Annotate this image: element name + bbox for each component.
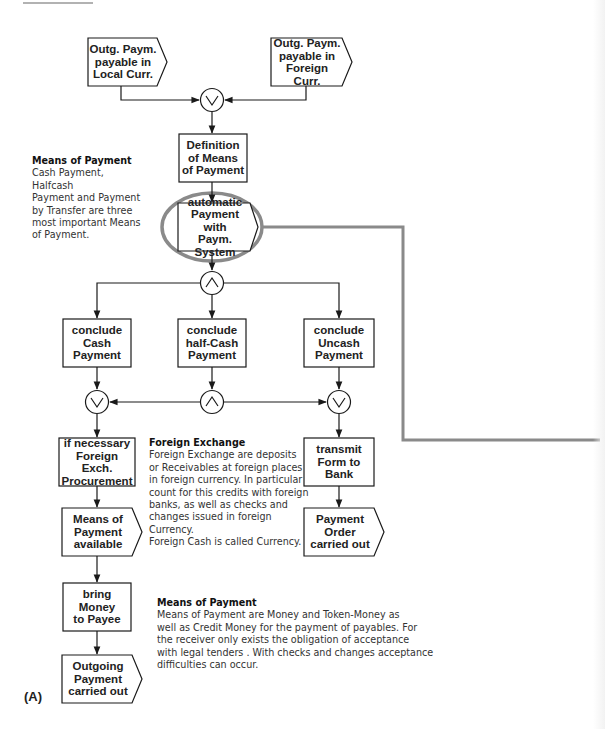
and-middle [201,391,224,414]
note-means-of-payment-1: Means of Payment Cash Payment, Halfcash … [32,155,142,242]
edge-and-cash [97,283,200,318]
note-body: Foreign Exchange are deposits or Receiva… [149,449,309,548]
xor-join-top [201,89,224,112]
note-means-of-payment-2: Means of Payment Means of Payment are Mo… [157,597,437,671]
note-body: Cash Payment, Halfcash Payment and Payme… [32,167,142,241]
note-foreign-exchange: Foreign Exchange Foreign Exchange are de… [149,437,309,549]
note-title: Foreign Exchange [149,437,309,449]
and-split [201,272,224,295]
note-title: Means of Payment [157,597,437,609]
event-foreign-label: Outg. Paym. payable in Foreign Curr. [271,38,343,86]
xor-left [86,391,109,414]
edge-local-xor [121,86,199,100]
func-bring-money-label: bring Money to Payee [63,583,131,631]
event-means-available-label: Means of Payment available [62,508,134,556]
func-halfcash-label: conclude half-Cash Payment [178,319,246,367]
func-procurement-label: if necessary Foreign Exch. Procurement [59,438,135,486]
func-transmit-label: transmit Form to Bank [304,438,374,486]
figure-label: (A) [24,689,42,704]
note-title: Means of Payment [32,155,142,167]
func-uncash-label: conclude Uncash Payment [304,319,374,367]
event-order-done-label: Payment Order carried out [304,508,376,556]
func-definition-label: Definition of Means of Payment [179,134,247,182]
xor-right [328,391,351,414]
page-edge-shadow [593,0,605,729]
event-automatic-label: automatic Payment with Paym. System [178,203,252,251]
edge-foreign-xor [225,86,306,100]
edge-and-uncash [224,283,339,318]
func-cash-label: conclude Cash Payment [63,319,131,367]
event-outgoing-done-label: Outgoing Payment carried out [62,655,134,703]
event-local-label: Outg. Paym. payable in Local Curr. [88,38,158,86]
note-body: Means of Payment are Money and Token-Mon… [157,609,437,671]
